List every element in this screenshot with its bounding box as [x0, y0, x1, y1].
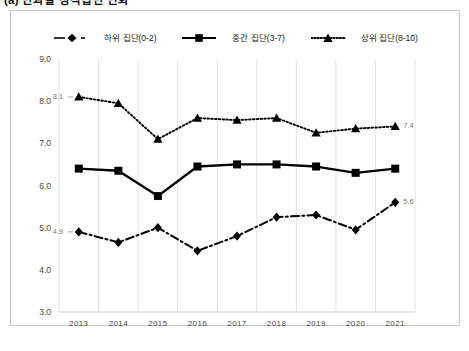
data-point-label: 7.4	[403, 122, 413, 130]
y-axis-tick-label: 6.0	[25, 182, 51, 191]
y-axis-tick-label: 9.0	[25, 55, 51, 64]
data-point-marker	[154, 223, 162, 232]
data-point-label: 4.9	[53, 228, 63, 236]
series-line-0	[79, 202, 395, 250]
x-axis-tick-label: 2018	[255, 320, 299, 328]
data-point-marker	[193, 246, 201, 255]
data-point-marker	[75, 227, 83, 236]
x-axis-tick-label: 2014	[96, 320, 140, 328]
data-point-marker	[273, 160, 281, 168]
data-point-marker	[391, 198, 399, 207]
figure-frame: 하위 집단(0-2) 중간 집단(3-7) 상위 집단(8-10) 9.08.0…	[10, 10, 460, 326]
x-axis-tick-label: 2015	[136, 320, 180, 328]
data-point-marker	[154, 192, 162, 200]
x-axis-tick-label: 2020	[334, 320, 378, 328]
data-point-marker	[233, 160, 241, 168]
data-point-marker	[74, 92, 83, 100]
data-point-marker	[114, 99, 123, 107]
y-axis-tick-label: 3.0	[25, 308, 51, 317]
series-line-1	[79, 164, 395, 196]
y-axis-tick-label: 4.0	[25, 266, 51, 275]
plot-area: 9.08.07.06.05.04.03.02013201420152016201…	[11, 11, 461, 327]
data-point-marker	[352, 225, 360, 234]
data-point-marker	[114, 238, 122, 247]
data-point-marker	[233, 232, 241, 241]
data-point-marker	[114, 167, 122, 175]
data-point-marker	[352, 169, 360, 177]
x-axis-tick-label: 2021	[373, 320, 417, 328]
data-point-marker	[312, 163, 320, 171]
data-point-label: 8.1	[53, 93, 63, 101]
line-chart	[11, 11, 461, 327]
x-axis-tick-label: 2017	[215, 320, 259, 328]
data-point-marker	[75, 165, 83, 173]
x-axis-tick-label: 2016	[175, 320, 219, 328]
y-axis-tick-label: 5.0	[25, 224, 51, 233]
data-point-marker	[391, 165, 399, 173]
x-axis-tick-label: 2019	[294, 320, 338, 328]
y-axis-tick-label: 8.0	[25, 97, 51, 106]
data-point-marker	[273, 213, 281, 222]
data-point-marker	[193, 163, 201, 171]
figure-root: (a) 단과별 성적집단 변화 하위 집단(0-2) 중간 집단(3-7)	[0, 0, 469, 351]
data-point-marker	[312, 210, 320, 219]
x-axis-tick-label: 2013	[57, 320, 101, 328]
y-axis-tick-label: 7.0	[25, 139, 51, 148]
figure-caption: (a) 단과별 성적집단 변화	[4, 0, 304, 9]
data-point-label: 5.6	[403, 198, 413, 206]
